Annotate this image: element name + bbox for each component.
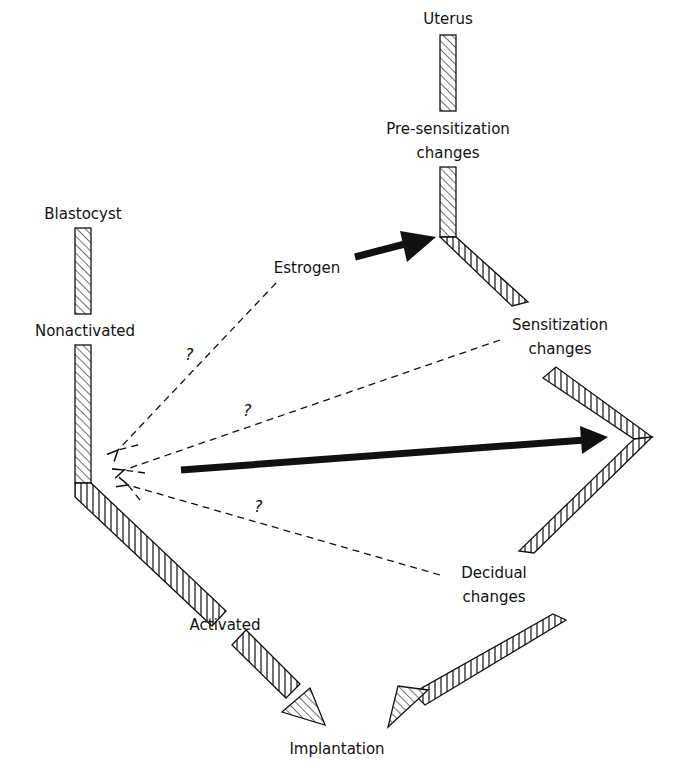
uterus-band-mid (440, 167, 456, 237)
dashed-arrow-decidual (128, 485, 440, 575)
dashed-signal-arrows (118, 283, 500, 575)
estrogen-arrow (355, 231, 436, 262)
label-pre-sensitization-changes: changes (416, 144, 479, 162)
question-mark-sensitization: ? (243, 401, 252, 420)
label-estrogen: Estrogen (274, 259, 340, 277)
blastocyst-band-diagonal (75, 483, 226, 626)
label-decidual-changes: changes (462, 588, 525, 606)
blastocyst-band-to-implantation (232, 630, 300, 698)
label-blastocyst: Blastocyst (44, 205, 121, 223)
label-sensitization: Sensitization (512, 316, 608, 334)
blastocyst-band-lower (75, 345, 91, 483)
uterus-path (388, 35, 652, 727)
blastocyst-band-upper (75, 228, 91, 314)
implantation-pathway-diagram: ? ? ? Uterus Pre-sensitization changes B… (0, 0, 682, 771)
question-mark-decidual: ? (254, 497, 263, 516)
question-mark-estrogen: ? (185, 345, 194, 364)
uterus-arrowhead (388, 686, 428, 727)
uterus-band-top (440, 35, 456, 111)
label-uterus: Uterus (423, 10, 473, 28)
dashed-arrow-estrogen (118, 283, 276, 450)
uterus-band-diag-upper (440, 237, 528, 306)
blastocyst-to-uterus-arrow (181, 426, 608, 470)
label-sensitization-changes: changes (528, 340, 591, 358)
uterus-chevron-lower (519, 437, 652, 553)
label-implantation: Implantation (289, 740, 384, 758)
blastocyst-path (75, 228, 325, 725)
uterus-chevron-upper (543, 367, 652, 439)
label-activated: Activated (190, 616, 261, 634)
label-nonactivated: Nonactivated (35, 322, 135, 340)
label-pre-sensitization: Pre-sensitization (386, 120, 510, 138)
label-decidual: Decidual (461, 564, 527, 582)
uterus-band-to-implantation (413, 614, 566, 705)
